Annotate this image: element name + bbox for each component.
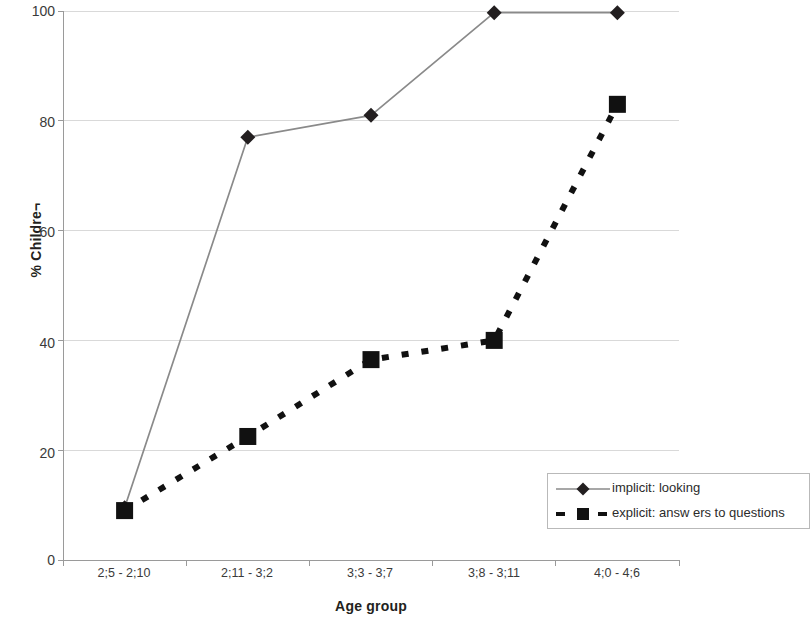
series-line-1 [125, 104, 618, 510]
legend: implicit: looking explicit: answ ers to … [547, 473, 810, 529]
legend-swatch-explicit-icon [554, 501, 612, 527]
chart-container: % Childre¬ 100 80 60 40 20 0 2;5 - 2;10 … [0, 0, 812, 626]
legend-swatch-implicit-icon [554, 476, 612, 502]
data-point-marker [239, 428, 256, 445]
series-markers [116, 5, 626, 519]
y-axis-ticks [58, 11, 63, 560]
series-lines [125, 13, 618, 511]
series-line-0 [125, 13, 618, 508]
data-point-marker [116, 502, 133, 519]
data-point-marker [240, 130, 255, 145]
legend-item-explicit: explicit: answ ers to questions [548, 501, 809, 527]
data-point-marker [486, 332, 503, 349]
data-point-marker [363, 351, 380, 368]
legend-label-explicit: explicit: answ ers to questions [612, 505, 785, 520]
data-point-marker [610, 5, 625, 20]
data-point-marker [609, 96, 626, 113]
legend-item-implicit: implicit: looking [548, 476, 809, 502]
legend-label-implicit: implicit: looking [612, 480, 700, 495]
x-axis-ticks [63, 560, 679, 566]
plot-area [0, 0, 812, 626]
